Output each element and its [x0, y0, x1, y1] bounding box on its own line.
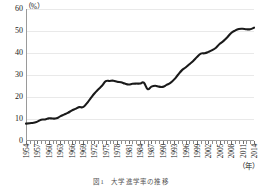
- x-axis-unit-label: （年）: [238, 160, 259, 171]
- x-axis-tick-label: 1975: [103, 144, 111, 158]
- x-axis-tick-label: 1957: [34, 144, 42, 158]
- x-axis-tick-label: 1954: [23, 144, 31, 158]
- y-axis-tick-label: 60: [15, 5, 23, 13]
- x-axis-tick-label: 2011: [240, 144, 248, 158]
- x-axis-tick-label: 2014: [251, 144, 259, 158]
- y-axis-tick-label: 10: [15, 115, 23, 123]
- x-axis-tick-label: 1966: [69, 144, 77, 158]
- x-axis-tick-label: 1963: [57, 144, 65, 158]
- x-axis-tick-label: 1972: [91, 144, 99, 158]
- plot-area: 0102030405060: [26, 9, 254, 141]
- chart-figure: （%） 0102030405060 1954195719601963196619…: [0, 0, 262, 188]
- x-axis-tick-label: 1990: [160, 144, 168, 158]
- y-axis-tick-label: 50: [15, 27, 23, 35]
- x-axis-tick-label: 2005: [217, 144, 225, 158]
- x-axis-tick-label: 1978: [114, 144, 122, 158]
- data-line-series: [26, 9, 254, 141]
- x-axis-tick-label: 1996: [183, 144, 191, 158]
- y-axis-tick-label: 30: [15, 71, 23, 79]
- x-axis-tick-label: 1984: [137, 144, 145, 158]
- x-axis-tick-label: 1987: [148, 144, 156, 158]
- x-axis-tick-label: 2008: [228, 144, 236, 158]
- x-axis-tick-label: 1960: [46, 144, 54, 158]
- x-axis-tick-label: 1999: [194, 144, 202, 158]
- y-axis-tick-label: 40: [15, 49, 23, 57]
- x-axis-tick-label: 1993: [171, 144, 179, 158]
- x-axis-tick-label: 1981: [126, 144, 134, 158]
- x-axis-tick-label: 2002: [205, 144, 213, 158]
- figure-caption: 図1 大学進学率の推移: [0, 176, 262, 186]
- x-axis-labels: 1954195719601963196619691972197519781981…: [26, 144, 254, 178]
- x-axis-tick-label: 1969: [80, 144, 88, 158]
- y-axis-tick-label: 20: [15, 93, 23, 101]
